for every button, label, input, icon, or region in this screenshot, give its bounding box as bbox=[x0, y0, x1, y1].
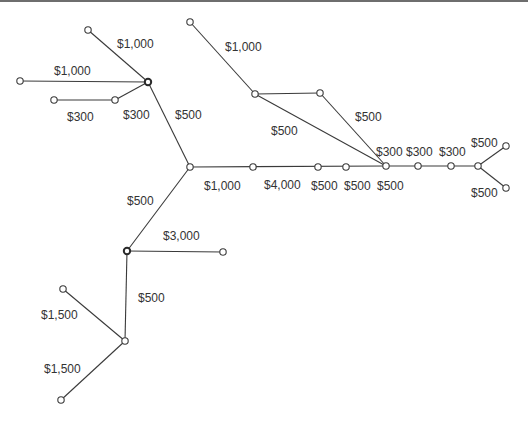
node bbox=[60, 286, 66, 292]
node bbox=[448, 163, 454, 169]
edge-amount-label: $500 bbox=[355, 110, 382, 124]
node bbox=[17, 78, 23, 84]
edge-amount-label: $500 bbox=[175, 108, 202, 122]
node bbox=[220, 249, 226, 255]
node bbox=[503, 185, 509, 191]
node bbox=[315, 164, 321, 170]
node bbox=[503, 143, 509, 149]
edge bbox=[125, 251, 127, 341]
labels-layer: $1,000$1,000$300$300$500$1,000$500$500$3… bbox=[41, 37, 498, 376]
edge bbox=[478, 166, 506, 188]
hub-node bbox=[145, 79, 151, 85]
edges-layer bbox=[20, 22, 506, 400]
node bbox=[252, 91, 258, 97]
edge-amount-label: $300 bbox=[123, 108, 150, 122]
edge-amount-label: $300 bbox=[406, 145, 433, 159]
edge bbox=[20, 81, 148, 82]
node bbox=[343, 164, 349, 170]
edge-amount-label: $1,000 bbox=[117, 37, 154, 51]
edge-amount-label: $1,500 bbox=[41, 308, 78, 322]
edge bbox=[190, 22, 255, 94]
edge-amount-label: $1,000 bbox=[225, 40, 262, 54]
edge-amount-label: $1,000 bbox=[54, 64, 91, 78]
edge-amount-label: $300 bbox=[67, 110, 94, 124]
edge-amount-label: $1,000 bbox=[204, 179, 241, 193]
edge-amount-label: $1,500 bbox=[44, 362, 81, 376]
node bbox=[187, 164, 193, 170]
edge-amount-label: $500 bbox=[311, 179, 338, 193]
edge-amount-label: $3,000 bbox=[163, 229, 200, 243]
node bbox=[187, 19, 193, 25]
edge-amount-label: $500 bbox=[127, 194, 154, 208]
node bbox=[383, 163, 389, 169]
edge bbox=[115, 82, 148, 100]
node bbox=[415, 163, 421, 169]
edge-amount-label: $4,000 bbox=[264, 178, 301, 192]
hub-node bbox=[124, 248, 130, 254]
edge-amount-label: $500 bbox=[271, 124, 298, 138]
edge-amount-label: $500 bbox=[344, 179, 371, 193]
edge-amount-label: $300 bbox=[439, 145, 466, 159]
edge-amount-label: $500 bbox=[471, 186, 498, 200]
node bbox=[58, 397, 64, 403]
node bbox=[475, 163, 481, 169]
edge-amount-label: $500 bbox=[138, 291, 165, 305]
node bbox=[85, 27, 91, 33]
edge-amount-label: $300 bbox=[376, 145, 403, 159]
node bbox=[51, 97, 57, 103]
node bbox=[317, 90, 323, 96]
edge bbox=[127, 251, 223, 252]
node bbox=[122, 338, 128, 344]
node bbox=[250, 164, 256, 170]
edge-amount-label: $500 bbox=[377, 179, 404, 193]
edge-amount-label: $500 bbox=[471, 136, 498, 150]
edge bbox=[255, 93, 320, 94]
edge bbox=[190, 166, 386, 167]
edge bbox=[148, 82, 190, 167]
node bbox=[112, 97, 118, 103]
network-diagram: $1,000$1,000$300$300$500$1,000$500$500$3… bbox=[0, 0, 528, 423]
